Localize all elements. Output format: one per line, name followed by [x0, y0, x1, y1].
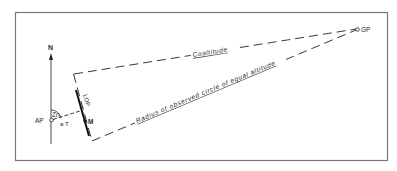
celestial-lop-diagram: N Zn AP a T LOP M GP Coaltitude Radius o…: [0, 0, 397, 171]
north-arrow-icon: [49, 53, 53, 60]
a-label-text: a: [60, 121, 64, 127]
gp-label: GP: [361, 26, 370, 33]
zn-label: Zn: [52, 111, 60, 118]
m-label: M: [88, 118, 93, 125]
lop-label: LOP: [82, 94, 91, 107]
diagram-frame: [16, 13, 388, 161]
north-label: N: [48, 44, 53, 51]
a-label: a T: [60, 121, 69, 127]
ap-point: [50, 118, 54, 122]
gp-point: [356, 28, 360, 32]
radius-label: Radius of observed circle of equal altit…: [135, 59, 277, 125]
t-label-text: T: [65, 121, 69, 127]
ap-label: AP: [35, 117, 44, 124]
left-dashed-edge: [74, 74, 93, 141]
